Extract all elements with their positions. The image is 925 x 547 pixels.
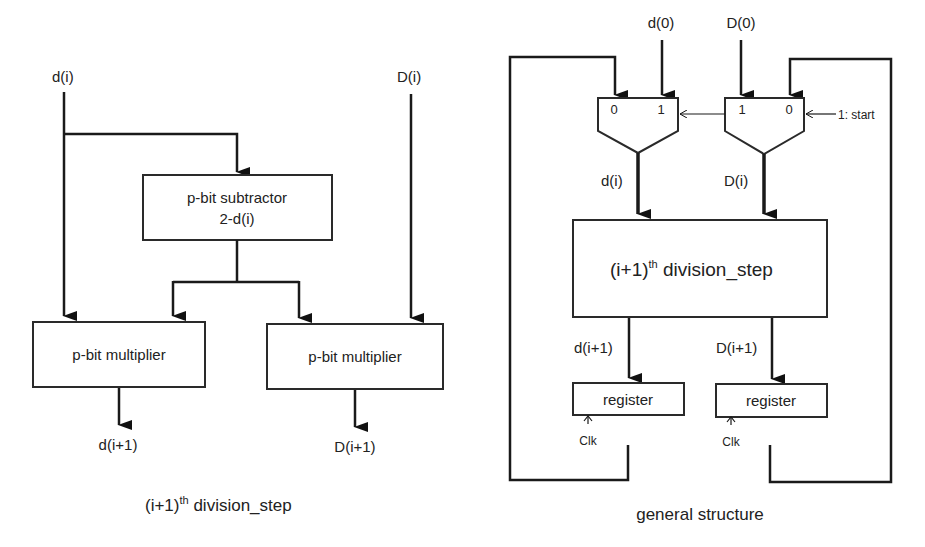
multiplier-right-label: p-bit multiplier	[308, 348, 401, 365]
block-diagram: d(i) D(i) p-bit subtractor 2-d(i) p-bit …	[0, 0, 925, 547]
general-structure-diagram: d(0) D(0) 0 1 1 0 1: start d(i) D(i) (i+…	[510, 14, 891, 524]
output-D-label: D(i+1)	[334, 438, 375, 455]
subtractor-label: p-bit subtractor	[187, 189, 287, 206]
subtractor-formula: 2-d(i)	[219, 210, 254, 227]
mux-right-in0: 0	[785, 102, 792, 117]
input-D-label: D(i)	[397, 68, 421, 85]
multiplier-left-label: p-bit multiplier	[72, 346, 165, 363]
division-step-label: (i+1)th division_step	[610, 258, 773, 281]
clock-left-label: Clk	[579, 434, 597, 448]
mux-left-in0: 0	[610, 102, 617, 117]
input-d-label: d(i)	[52, 68, 74, 85]
mux-left-in1: 1	[657, 102, 664, 117]
mux-out-d-label: d(i)	[601, 172, 623, 189]
left-caption: (i+1)th division_step	[145, 494, 292, 515]
input-d0-label: d(0)	[648, 14, 675, 31]
right-caption: general structure	[636, 505, 764, 524]
step-out-D-label: D(i+1)	[716, 339, 757, 356]
wire-d-to-subtractor	[64, 134, 237, 172]
register-right-label: register	[746, 392, 796, 409]
register-left-label: register	[603, 391, 653, 408]
mux-out-D-label: D(i)	[724, 172, 748, 189]
subtractor-block	[143, 175, 332, 240]
output-d-label: d(i+1)	[99, 436, 138, 453]
division-step-diagram: d(i) D(i) p-bit subtractor 2-d(i) p-bit …	[33, 68, 443, 515]
clock-right-label: Clk	[722, 435, 740, 449]
step-out-d-label: d(i+1)	[574, 339, 613, 356]
input-D0-label: D(0)	[726, 14, 755, 31]
mux-right-in1: 1	[738, 102, 745, 117]
select-label: 1: start	[838, 108, 875, 122]
diagram-canvas: d(i) D(i) p-bit subtractor 2-d(i) p-bit …	[0, 0, 925, 547]
